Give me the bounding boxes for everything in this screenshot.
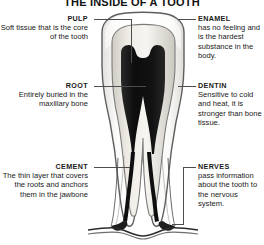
callout-dentin: DENTIN Sensitive to cold and heat, it is…: [198, 81, 264, 128]
callout-root: ROOT Entirely buried in the maxillary bo…: [0, 81, 88, 109]
callout-pulp-description: Soft tissue that is the core of the toot…: [0, 23, 88, 42]
callout-enamel-term: ENAMEL: [198, 14, 264, 23]
callout-dentin-description: Sensitive to cold and heat, it is strong…: [198, 90, 264, 128]
leader-line-enamel: [178, 19, 196, 20]
callout-pulp: PULP Soft tissue that is the core of the…: [0, 14, 88, 42]
callout-enamel: ENAMEL has no feeling and is the hardest…: [198, 14, 264, 61]
callout-root-term: ROOT: [0, 81, 88, 90]
leader-line-cement: [94, 167, 130, 168]
leader-line-dentin: [178, 86, 196, 87]
tooth-infographic: THE INSIDE OF A TOOTH: [0, 0, 264, 245]
callout-nerves-term: NERVES: [198, 162, 264, 171]
leader-line-pulp-horizontal: [94, 19, 132, 20]
callout-cement: CEMENT The thin layer that covers the ro…: [0, 162, 88, 199]
callout-cement-term: CEMENT: [0, 162, 88, 171]
tooth-illustration: [88, 8, 198, 245]
leader-line-nerves-vertical: [183, 167, 184, 225]
leader-line-pulp-vertical: [131, 19, 132, 63]
callout-pulp-term: PULP: [0, 14, 88, 23]
leader-line-nerves-foot: [172, 224, 184, 225]
page-title: THE INSIDE OF A TOOTH: [0, 0, 264, 8]
leader-line-root: [94, 86, 146, 87]
callout-enamel-description: has no feeling and is the hardest substa…: [198, 23, 264, 61]
callout-dentin-term: DENTIN: [198, 81, 264, 90]
leader-line-nerves-horizontal: [183, 167, 196, 168]
callout-cement-description: The thin layer that covers the roots and…: [0, 171, 88, 199]
callout-nerves: NERVES pass information about the tooth …: [198, 162, 264, 209]
callout-root-description: Entirely buried in the maxillary bone: [0, 90, 88, 109]
callout-nerves-description: pass information about the tooth to the …: [198, 171, 264, 209]
